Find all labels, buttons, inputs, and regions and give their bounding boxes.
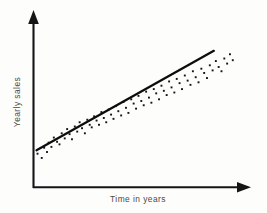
data-point <box>66 128 68 130</box>
data-point <box>96 120 98 122</box>
data-point <box>206 77 208 79</box>
data-point <box>195 76 197 78</box>
data-series-layer <box>37 51 234 159</box>
data-point <box>59 143 61 145</box>
data-point <box>187 80 189 82</box>
chart-canvas: Time in years Yearly sales <box>0 0 267 213</box>
data-point <box>103 117 105 119</box>
data-point <box>125 107 127 109</box>
data-point <box>181 88 183 90</box>
data-point <box>203 72 205 74</box>
data-point <box>173 92 175 94</box>
data-point <box>138 95 140 97</box>
data-point <box>229 53 231 55</box>
data-point <box>53 137 55 139</box>
scatter-points <box>37 53 234 159</box>
data-point <box>56 141 58 143</box>
data-point <box>127 112 129 114</box>
data-point <box>223 58 225 60</box>
data-point <box>168 81 170 83</box>
y-axis-title: Yearly sales <box>12 77 22 127</box>
data-point <box>89 124 91 126</box>
data-point <box>84 132 86 134</box>
data-point <box>190 84 192 86</box>
scatter-plot-figure: Time in years Yearly sales <box>0 0 267 213</box>
data-point <box>215 60 217 62</box>
data-point <box>117 110 119 112</box>
data-point <box>184 75 186 77</box>
data-point <box>133 103 135 105</box>
data-point <box>176 78 178 80</box>
data-point <box>150 102 152 104</box>
data-point <box>61 132 63 134</box>
data-point <box>200 68 202 70</box>
data-point <box>226 63 228 65</box>
data-point <box>37 153 39 155</box>
data-point <box>166 94 168 96</box>
data-point <box>76 131 78 133</box>
data-point <box>232 59 234 61</box>
arrow-up-icon <box>28 10 39 24</box>
data-point <box>91 126 93 128</box>
data-point <box>120 115 122 117</box>
arrow-right-icon <box>237 182 251 193</box>
data-point <box>171 86 173 88</box>
data-point <box>148 97 150 99</box>
data-point <box>69 133 71 135</box>
data-point <box>198 81 200 83</box>
data-point <box>113 118 115 120</box>
data-point <box>143 104 145 106</box>
data-point <box>105 121 107 123</box>
data-point <box>50 146 52 148</box>
data-point <box>163 90 165 92</box>
data-point <box>212 69 214 71</box>
data-point <box>221 70 223 72</box>
data-point <box>158 98 160 100</box>
data-point <box>64 137 66 139</box>
x-axis-title: Time in years <box>110 194 166 204</box>
data-point <box>218 66 220 68</box>
data-point <box>81 127 83 129</box>
data-point <box>209 64 211 66</box>
data-point <box>98 124 100 126</box>
data-point <box>71 138 73 140</box>
data-point <box>155 92 157 94</box>
data-point <box>110 114 112 116</box>
data-point <box>135 108 137 110</box>
data-point <box>161 85 163 87</box>
data-point <box>140 100 142 102</box>
data-point <box>79 121 81 123</box>
data-point <box>145 91 147 93</box>
trend-line <box>37 51 214 150</box>
data-point <box>41 157 43 159</box>
data-point <box>153 88 155 90</box>
data-point <box>179 82 181 84</box>
data-point <box>192 70 194 72</box>
data-point <box>46 151 48 153</box>
